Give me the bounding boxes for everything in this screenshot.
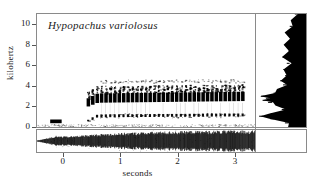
y-tick-label: 6 bbox=[8, 59, 30, 69]
y-tick-label: 8 bbox=[8, 39, 30, 49]
panel-divider bbox=[255, 13, 256, 153]
x-tick-mark bbox=[120, 153, 121, 157]
species-title: Hypopachus variolosus bbox=[48, 19, 158, 31]
figure-spectrogram: kilohertz seconds 0246810 0123 Hypopachu… bbox=[0, 0, 316, 187]
power-spectrum-trace bbox=[260, 14, 306, 127]
y-tick-label: 10 bbox=[8, 18, 30, 28]
x-tick-label: 0 bbox=[56, 156, 70, 166]
x-tick-label: 2 bbox=[171, 156, 185, 166]
x-tick-mark bbox=[63, 153, 64, 157]
y-tick-label: 2 bbox=[8, 100, 30, 110]
y-tick-label: 0 bbox=[8, 121, 30, 131]
y-tick-label: 4 bbox=[8, 80, 30, 90]
x-tick-label: 3 bbox=[228, 156, 242, 166]
oscillogram-panel bbox=[36, 129, 307, 153]
x-tick-mark bbox=[178, 153, 179, 157]
x-tick-label: 1 bbox=[113, 156, 127, 166]
x-tick-mark bbox=[235, 153, 236, 157]
x-axis-label: seconds bbox=[0, 168, 275, 178]
oscillogram-plot bbox=[37, 130, 306, 152]
